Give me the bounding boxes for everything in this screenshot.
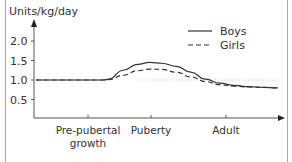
- legend-label-boys: Boys: [220, 25, 247, 38]
- x-tick-label: Puberty: [131, 124, 172, 136]
- x-axis-arrow-icon: [278, 115, 285, 121]
- y-axis-label: Units/kg/day: [9, 5, 79, 18]
- series-boys: [36, 62, 278, 87]
- x-tick-label: growth: [70, 137, 107, 149]
- y-tick-label: 0.5: [10, 94, 28, 107]
- y-axis-ticks: 0.51.01.52.0: [10, 35, 34, 107]
- x-tick-label: Pre-pubertal: [56, 124, 121, 136]
- line-chart: Units/kg/day 0.51.01.52.0 Pre-pubertalgr…: [0, 0, 292, 162]
- x-tick-label: Adult: [212, 124, 239, 136]
- legend: BoysGirls: [188, 25, 247, 52]
- y-tick-label: 2.0: [10, 35, 28, 48]
- y-tick-label: 1.5: [10, 55, 28, 68]
- y-axis-arrow-icon: [31, 19, 37, 27]
- series-lines: [36, 62, 278, 87]
- legend-label-girls: Girls: [220, 39, 245, 52]
- series-girls: [36, 69, 278, 88]
- x-axis-ticks: Pre-pubertalgrowthPubertyAdult: [56, 115, 240, 149]
- y-tick-label: 1.0: [10, 74, 28, 87]
- axes: [31, 19, 285, 121]
